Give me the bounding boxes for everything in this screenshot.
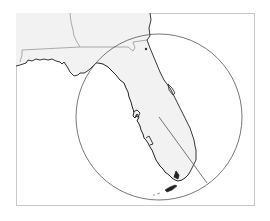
florida-keys: [165, 185, 177, 192]
land-florida: [16, 40, 196, 181]
location-marker[interactable]: [145, 48, 147, 50]
florida-keys-west: [153, 193, 160, 195]
map-canvas[interactable]: [0, 0, 270, 221]
